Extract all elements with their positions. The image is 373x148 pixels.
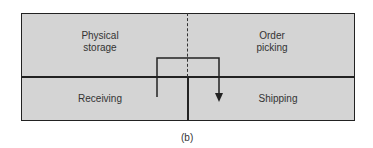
down-arrow-icon (215, 93, 223, 102)
flow-arrow (0, 0, 373, 148)
figure-caption: (b) (181, 132, 193, 143)
